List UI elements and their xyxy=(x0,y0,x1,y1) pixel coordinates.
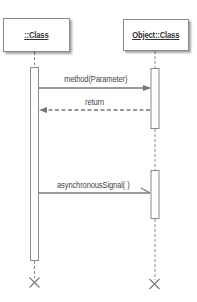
activation-bar-right-2 xyxy=(151,171,159,219)
lifeline-label-left: ::Class xyxy=(24,30,48,40)
activation-bar-right-1 xyxy=(151,69,159,129)
lifeline-label-right: Object::Class xyxy=(132,30,179,40)
message-label-return: return xyxy=(85,97,104,107)
lifeline-header-right: Object::Class xyxy=(123,19,189,51)
message-label-async: asynchronousSignal( ) xyxy=(57,180,130,190)
activation-bar-left xyxy=(31,68,39,261)
async-half-arrowhead-icon xyxy=(141,188,150,193)
destroy-x-icon-left xyxy=(30,278,40,288)
destroy-x-icon-right xyxy=(150,279,160,289)
lifeline-header-left: ::Class xyxy=(3,18,70,52)
message-label-method: method(Parameter) xyxy=(64,74,127,84)
